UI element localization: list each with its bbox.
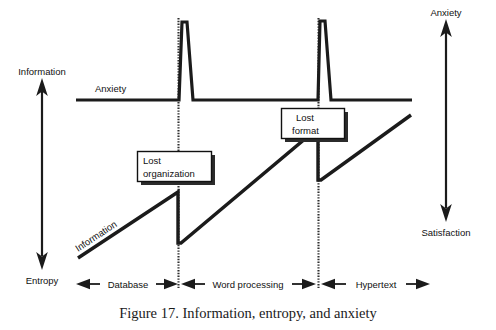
figure-caption: Figure 17. Information, entropy, and anx… [119, 305, 377, 321]
phase-range-word-processing: Word processing [181, 279, 316, 290]
callout-lost-organization[interactable]: Lost organization [138, 152, 216, 186]
callout-lost-format-line2: format [292, 125, 319, 136]
phase-range-hypertext: Hypertext [321, 279, 430, 290]
information-curve [78, 115, 411, 258]
phase-database-left-arrowhead [76, 279, 90, 289]
right-axis-top-label: Anxiety [430, 7, 461, 18]
phase-word-processing-left-arrowhead [181, 279, 195, 289]
figure-svg: Information Entropy Anxiety Satisfaction… [0, 0, 496, 330]
information-series: Information [73, 115, 411, 258]
callout-lost-format[interactable]: Lost format [282, 109, 349, 143]
left-axis: Information Entropy [18, 66, 66, 286]
anxiety-curve [76, 21, 412, 100]
phase-database-right-arrowhead [164, 279, 178, 289]
phase-hypertext-left-arrowhead [321, 279, 335, 289]
left-axis-top-label: Information [18, 66, 66, 77]
anxiety-series: Anxiety [76, 21, 412, 100]
phase-hypertext-right-arrowhead [416, 279, 430, 289]
phase-range-bars: Database Word processing Hypertext [76, 279, 430, 290]
left-axis-bottom-label: Entropy [26, 275, 59, 286]
phase-hypertext-label: Hypertext [356, 279, 397, 290]
anxiety-series-label: Anxiety [95, 83, 126, 94]
callout-lost-organization-line2: organization [143, 168, 195, 179]
phase-database-label: Database [108, 279, 149, 290]
callout-lost-organization-line1: Lost [143, 155, 161, 166]
phase-word-processing-right-arrowhead [302, 279, 316, 289]
phase-range-database: Database [76, 279, 178, 290]
right-axis-bottom-label: Satisfaction [421, 227, 470, 238]
phase-word-processing-label: Word processing [212, 279, 283, 290]
right-axis: Anxiety Satisfaction [421, 7, 470, 238]
figure-container: Information Entropy Anxiety Satisfaction… [0, 0, 496, 330]
callout-lost-format-line1: Lost [296, 112, 314, 123]
